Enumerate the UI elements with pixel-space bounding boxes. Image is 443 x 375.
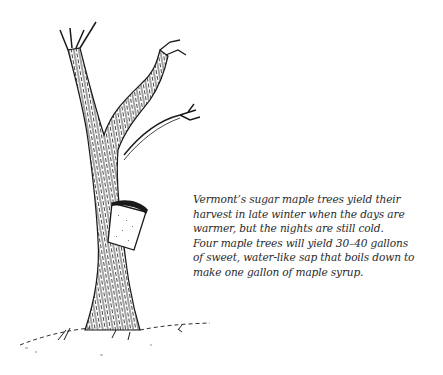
caption-line: warmer, but the nights are still cold.: [193, 221, 443, 236]
maple-tree-illustration: [0, 0, 230, 375]
caption-line: make one gallon of maple syrup.: [193, 265, 443, 280]
caption-text: Vermont’s sugar maple trees yield their …: [193, 192, 443, 280]
caption-line: harvest in late winter when the days are: [193, 207, 443, 222]
caption-line: Vermont’s sugar maple trees yield their: [193, 192, 443, 207]
caption-line: Four maple trees will yield 30–40 gallon…: [193, 236, 443, 251]
tree-trunk-icon: [60, 22, 200, 330]
caption-line: of sweet, water-like sap that boils down…: [193, 250, 443, 265]
sap-bucket-icon: [108, 200, 148, 250]
